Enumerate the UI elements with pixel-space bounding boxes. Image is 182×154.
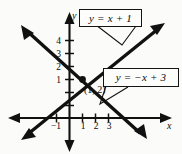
x-axis-label: x [167,120,171,131]
y-tick-label-4: 4 [49,36,61,46]
y-axis [65,12,75,152]
intersection-point-label: (1, 2) [84,84,106,95]
y-tick-label-3: 3 [49,49,61,59]
y-tick-label-1: 1 [49,75,61,85]
y-tick-label-2: 2 [49,62,61,72]
leader-line-equation-1 [96,25,136,45]
x-tick-label-1: 1 [77,121,89,131]
intersection-point-dot [79,76,86,83]
x-tick-label-3: 3 [103,121,115,131]
x-axis-arrow-left [8,113,20,123]
x-tick-label-minus-1: −1 [50,121,62,131]
equation-label-line-1: y = x + 1 [79,9,142,27]
y-axis-arrow-down [65,140,75,152]
x-tick-label-2: 2 [90,121,102,131]
graph-figure: y = x + 1 y = −x + 3 y x 4 3 2 1 −1 1 2 … [0,0,182,154]
line2-arrow-lower-right [134,124,147,139]
y-axis-label: y [72,10,76,21]
equation-label-line-2: y = −x + 3 [103,68,179,87]
